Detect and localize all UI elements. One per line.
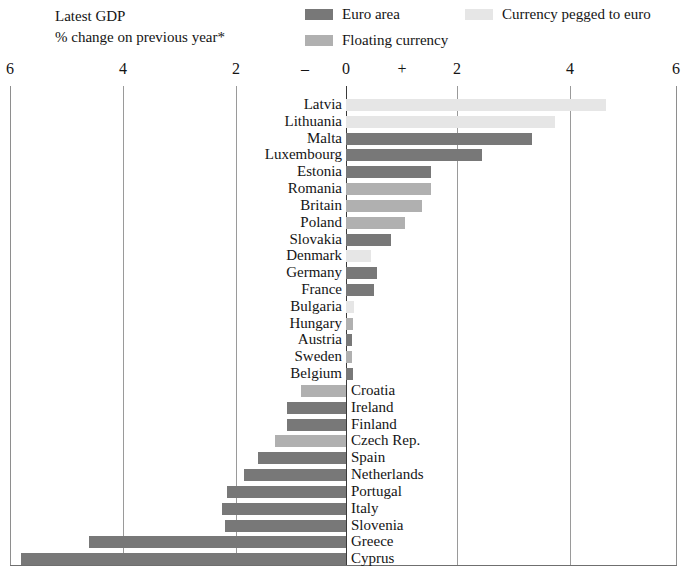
bar-latvia [346,99,606,111]
x-tick-label-2: 2 [232,60,240,78]
bar-label-luxembourg: Luxembourg [265,146,342,163]
bar-label-sweden: Sweden [295,348,343,365]
bar-sweden [346,351,352,363]
bar-greece [89,536,346,548]
bar-label-poland: Poland [300,214,342,231]
x-tick-label-4: 0 [342,60,350,78]
bar-denmark [346,250,371,262]
bar-netherlands [244,469,346,481]
legend-label-2: Floating currency [342,32,448,49]
legend-label-0: Euro area [342,6,400,23]
bar-label-finland: Finland [351,416,397,433]
bar-label-portugal: Portugal [351,483,402,500]
bar-germany [346,267,377,279]
bar-row: Portugal [0,484,683,501]
bar-label-slovakia: Slovakia [290,231,343,248]
bar-row: Greece [0,534,683,551]
bar-row: Latvia [0,97,683,114]
bar-label-ireland: Ireland [351,399,393,416]
bar-row: Sweden [0,349,683,366]
bar-row: Belgium [0,366,683,383]
chart-legend: Euro areaCurrency pegged to euroFloating… [305,4,683,54]
bar-row: Luxembourg [0,147,683,164]
bar-row: Bulgaria [0,299,683,316]
bar-label-czech-rep: Czech Rep. [351,432,420,449]
bar-romania [346,183,431,195]
bar-slovakia [346,234,391,246]
bar-row: Hungary [0,316,683,333]
x-tick-label-8: 6 [672,60,680,78]
bar-row: Austria [0,332,683,349]
bar-label-germany: Germany [286,264,342,281]
bar-label-bulgaria: Bulgaria [290,298,342,315]
bar-row: Germany [0,265,683,282]
legend-label-1: Currency pegged to euro [502,6,651,23]
bar-row: Lithuania [0,114,683,131]
floating-currency-swatch [305,35,333,46]
bar-row: Czech Rep. [0,433,683,450]
bar-portugal [227,486,346,498]
bar-label-austria: Austria [298,331,342,348]
bar-label-croatia: Croatia [351,382,395,399]
bar-luxembourg [346,149,482,161]
bar-row: Slovenia [0,518,683,535]
bar-row: France [0,282,683,299]
bar-label-greece: Greece [351,533,393,550]
bar-label-romania: Romania [288,180,342,197]
bar-label-italy: Italy [351,500,379,517]
bar-row: Italy [0,501,683,518]
chart-header: Latest GDP % change on previous year* Eu… [0,0,683,60]
chart-plot-area: 642–0+246 LatviaLithuaniaMaltaLuxembourg… [0,60,683,566]
bar-row: Romania [0,181,683,198]
bar-label-france: France [301,281,342,298]
bar-poland [346,217,405,229]
bar-label-malta: Malta [307,130,342,147]
bar-belgium [346,368,353,380]
bar-row: Denmark [0,248,683,265]
x-tick-label-3: – [301,60,309,78]
bar-label-denmark: Denmark [286,247,342,264]
bar-malta [346,133,532,145]
x-axis-tick-labels: 642–0+246 [0,60,683,86]
bar-croatia [301,385,346,397]
bar-bulgaria [346,301,354,313]
bar-cyprus [21,553,346,565]
bar-estonia [346,166,431,178]
euro-area-swatch [305,9,333,20]
bar-slovenia [225,520,346,532]
bar-italy [222,503,346,515]
legend-item-0: Euro area [305,6,400,23]
bar-rows: LatviaLithuaniaMaltaLuxembourgEstoniaRom… [0,86,683,566]
page-title: Latest GDP [55,6,225,27]
bar-row: Poland [0,215,683,232]
legend-item-2: Floating currency [305,32,448,49]
bar-row: Spain [0,450,683,467]
bar-row: Ireland [0,400,683,417]
bar-label-belgium: Belgium [290,365,342,382]
legend-item-1: Currency pegged to euro [465,6,651,23]
chart-title-block: Latest GDP % change on previous year* [55,6,225,48]
bar-lithuania [346,116,555,128]
bar-row: Cyprus [0,551,683,566]
bar-row: Finland [0,417,683,434]
bar-label-spain: Spain [351,449,385,466]
bar-label-britain: Britain [300,197,342,214]
bar-label-cyprus: Cyprus [351,550,394,566]
bar-label-lithuania: Lithuania [285,113,342,130]
x-tick-label-0: 6 [6,60,14,78]
bar-row: Estonia [0,164,683,181]
bar-row: Malta [0,131,683,148]
bar-britain [346,200,422,212]
bar-row: Croatia [0,383,683,400]
chart-subtitle: % change on previous year* [55,27,225,48]
x-tick-label-7: 4 [566,60,574,78]
bar-finland [287,419,346,431]
bar-label-slovenia: Slovenia [351,517,404,534]
bar-row: Britain [0,198,683,215]
bar-hungary [346,318,353,330]
x-tick-label-5: + [397,60,406,78]
bar-label-netherlands: Netherlands [351,466,423,483]
bar-label-estonia: Estonia [297,163,342,180]
bar-austria [346,334,352,346]
x-tick-label-6: 2 [453,60,461,78]
